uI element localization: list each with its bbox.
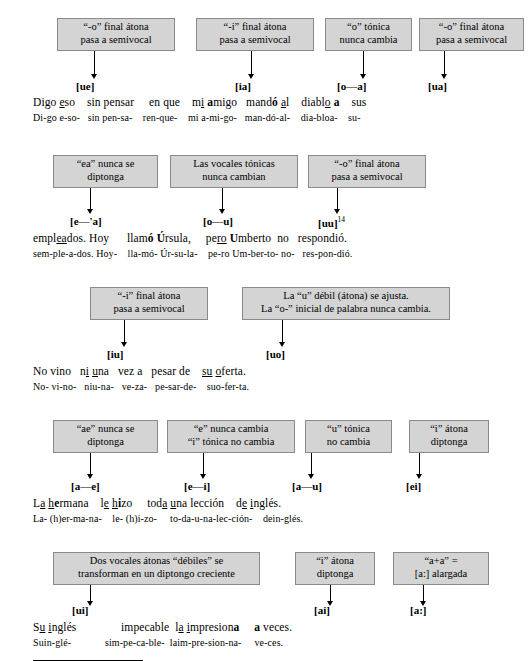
phonetic-10: [a—e] [71, 480, 100, 492]
rule-box-11-line-1: “e” nunca cambia [171, 423, 291, 436]
rule-box-15-line-2: diptonga [299, 568, 371, 581]
rule-box-8-line-1: “-i” final átona [94, 290, 204, 303]
rule-box-12-line-1: “u” tónica [309, 423, 388, 436]
rule-box-10: “ae” nunca se diptonga [53, 420, 158, 453]
row-3-line-1: No vino ni una vez a pesar de su oferta. [33, 365, 246, 377]
rule-box-3: “o” tónica nunca cambia [325, 18, 412, 51]
arrow-3 [363, 51, 364, 76]
rule-box-1-line-1: “-o” final átona [61, 21, 171, 34]
rule-box-6-line-1: Las vocales tónicas [174, 158, 294, 171]
phonetic-13: [ei] [406, 480, 421, 492]
rule-box-1-line-2: pasa a semivocal [61, 34, 171, 47]
rule-box-6: Las vocales tónicas nunca cambian [170, 155, 298, 188]
arrow-5-head [87, 209, 93, 214]
rule-box-3-line-2: nunca cambia [329, 34, 408, 47]
arrow-8 [124, 320, 125, 344]
rule-box-8-line-2: pasa a semivocal [94, 303, 204, 316]
phonetic-16: [a:] [410, 604, 427, 616]
arrow-11 [203, 453, 204, 476]
arrow-9-head [279, 342, 285, 347]
rule-box-16-line-2: [a:] alargada [397, 568, 485, 581]
rule-box-10-line-2: diptonga [57, 436, 154, 449]
rule-box-2-line-2: pasa a semivocal [200, 34, 310, 47]
arrow-10 [90, 453, 91, 476]
rule-box-7-line-1: “-o” final átona [312, 158, 422, 171]
arrow-9 [282, 320, 283, 344]
phonetic-9: [uo] [266, 348, 285, 360]
rule-box-2: “-i” final átona pasa a semivocal [196, 18, 314, 51]
arrow-1 [94, 51, 95, 76]
rule-box-13-line-2: diptonga [413, 436, 485, 449]
rule-box-4-line-2: pasa a semivocal [423, 34, 520, 47]
phonetic-1: [ue] [76, 80, 94, 92]
rule-box-7: “-o” final átona pasa a semivocal [308, 155, 426, 188]
arrow-13-head [416, 474, 422, 479]
arrow-1-head [91, 74, 97, 79]
arrow-10-head [87, 474, 93, 479]
phonetic-5: [e—'a] [70, 215, 102, 227]
rule-box-12: “u” tónica no cambia [305, 420, 392, 453]
rule-box-16-line-1: “a+a” = [397, 555, 485, 568]
rule-box-5: “ea” nunca se diptonga [53, 155, 158, 188]
arrow-5 [90, 188, 91, 211]
arrow-7-head [334, 209, 340, 214]
arrow-4-head [441, 74, 447, 79]
rule-box-12-line-2: no cambia [309, 436, 388, 449]
rule-box-10-line-1: “ae” nunca se [57, 423, 154, 436]
rule-box-14-line-1: Dos vocales átonas “débiles” se [57, 555, 256, 568]
arrow-3-head [360, 74, 366, 79]
phonetic-4: [ua] [428, 80, 447, 92]
phonetic-2: [ia] [235, 80, 251, 92]
rule-box-15: “i” átona diptonga [295, 552, 375, 585]
rule-box-4-line-1: “-o” final átona [423, 21, 520, 34]
phonetic-14: [ui] [72, 604, 89, 616]
arrow-2 [251, 51, 252, 76]
rule-box-3-line-1: “o” tónica [329, 21, 408, 34]
phonetic-11: [e—i] [184, 480, 210, 492]
arrow-7 [337, 188, 338, 211]
rule-box-9: La “u” débil (átona) se ajusta. La “o-” … [242, 287, 450, 320]
row-4-line-2: La- (h)er-ma-na- le- (h)i-zo- to-da-u-na… [33, 513, 303, 524]
rule-box-11: “e” nunca cambia “i” tónica no cambia [167, 420, 295, 453]
phonetic-12: [a—u] [292, 480, 322, 492]
row-1-line-1: Digo eso sin pensar en que mi amigo mand… [33, 96, 366, 108]
row-2-line-2: sem-ple-a-dos. Hoy- lla-mó- Úr-su-la- pe… [33, 248, 352, 259]
arrow-11-head [200, 474, 206, 479]
row-5-line-1: Su inglés impecable la impresiona a vece… [33, 621, 292, 633]
rule-box-9-line-1: La “u” débil (átona) se ajusta. [246, 290, 446, 303]
arrow-4 [444, 51, 445, 76]
row-4-line-1: La hermana le hizo toda una lección de i… [33, 497, 281, 509]
rule-box-15-line-1: “i” átona [299, 555, 371, 568]
phonetic-7: [uu]14 [318, 215, 345, 229]
rule-box-4: “-o” final átona pasa a semivocal [419, 18, 524, 51]
arrow-12 [311, 453, 312, 476]
rule-box-13: “i” átona diptonga [409, 420, 489, 453]
arrow-8-head [121, 342, 127, 347]
arrow-6-head [219, 209, 225, 214]
arrow-13 [419, 453, 420, 476]
row-2-line-1: empleados. Hoy llamó Úrsula, pero Umbert… [33, 232, 347, 244]
rule-box-6-line-2: nunca cambian [174, 171, 294, 184]
phonetic-3: [o—a] [337, 80, 366, 92]
row-1-line-2: Di-go e-so- sin pen-sa- ren-que- mi a-mi… [33, 112, 361, 123]
rule-box-7-line-2: pasa a semivocal [312, 171, 422, 184]
phonetic-6: [o—u] [203, 215, 233, 227]
phonetic-7-text: [uu] [318, 217, 338, 229]
rule-box-16: “a+a” = [a:] alargada [393, 552, 489, 585]
row-5-line-2: Suin-glé- sim-pe-ca-ble- laim-pre-sion-n… [33, 637, 283, 648]
rule-box-1: “-o” final átona pasa a semivocal [57, 18, 175, 51]
rule-box-13-line-1: “i” átona [413, 423, 485, 436]
rule-box-2-line-1: “-i” final átona [200, 21, 310, 34]
arrow-12-head [308, 474, 314, 479]
phonetic-8: [iu] [107, 348, 124, 360]
arrow-2-head [248, 74, 254, 79]
rule-box-14-line-2: transforman en un diptongo creciente [57, 568, 256, 581]
rule-box-9-line-2: La “o-” inicial de palabra nunca cambia. [246, 303, 446, 316]
phonetic-7-note: 14 [338, 215, 346, 224]
rule-box-11-line-2: “i” tónica no cambia [171, 436, 291, 449]
row-3-line-2: No- vi-no- niu-na- ve-za- pe-sar-de- suo… [33, 381, 249, 392]
rule-box-5-line-2: diptonga [57, 171, 154, 184]
rule-box-5-line-1: “ea” nunca se [57, 158, 154, 171]
rule-box-8: “-i” final átona pasa a semivocal [90, 287, 208, 320]
